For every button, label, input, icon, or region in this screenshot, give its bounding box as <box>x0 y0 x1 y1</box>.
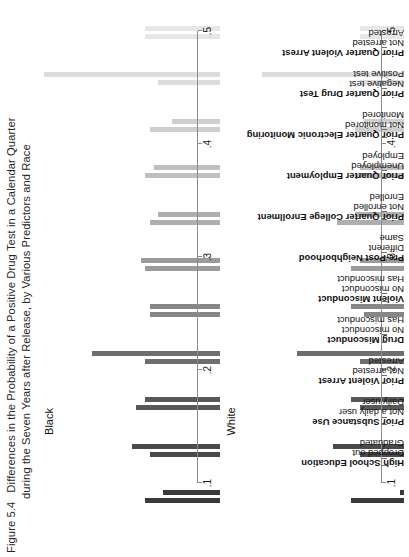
category-heading: Prior Violent Arrest <box>319 376 404 386</box>
category-heading: Prior Substance Use <box>312 417 404 427</box>
figure-title-line1: Differences in the Probability of a Posi… <box>5 117 17 492</box>
category-level: Unemployed <box>351 161 404 171</box>
bar-group <box>226 474 404 520</box>
category-level: Not arrested <box>352 366 404 376</box>
category-level: Positive test <box>353 68 404 78</box>
axis-tick-label: .5 <box>202 27 213 35</box>
category-level: No misconduct <box>342 284 404 294</box>
category-heading: Violent Misconduct <box>318 294 404 304</box>
panel-black: Black .1.2.3.4.5 <box>44 5 220 524</box>
figure-number: Figure 5.4 <box>5 502 17 553</box>
category-level: Daily user <box>362 397 404 407</box>
category-level: Not monitored <box>345 120 404 130</box>
category-level: Not enrolled <box>353 202 404 212</box>
category-heading: Pre-Post Neighborhood <box>299 253 404 263</box>
axis-tick-label: .1 <box>386 479 397 487</box>
bar-group <box>44 381 220 427</box>
category-heading: High School Education <box>301 458 404 468</box>
axis-tick-label: .3 <box>202 253 213 261</box>
category-level: Different <box>369 243 404 253</box>
bar-group <box>44 55 220 101</box>
category-level: No misconduct <box>342 325 404 335</box>
bar <box>163 490 220 495</box>
bar-group <box>44 334 220 380</box>
category-heading: Prior Quarter College Enrollment <box>258 212 404 222</box>
axis-tick-label: .4 <box>386 140 397 148</box>
category-heading: Prior Quarter Electronic Monitoring <box>247 130 404 140</box>
bar <box>145 498 220 503</box>
category-level: Arrested <box>369 27 404 37</box>
category-heading: Drug Misconduct <box>327 335 404 345</box>
axis-tick-label: .1 <box>202 479 213 487</box>
bar-group <box>44 195 220 241</box>
category-heading: Prior Quarter Employment <box>287 171 404 181</box>
bar-group <box>44 241 220 287</box>
category-level: Not a daily user <box>339 407 404 417</box>
bar-group <box>44 474 220 520</box>
bars-black <box>44 5 220 524</box>
category-level: Has misconduct <box>337 274 404 284</box>
category-level: Has misconduct <box>337 315 404 325</box>
figure-page: Figure 5.4Differences in the Probability… <box>0 0 409 557</box>
bar-group <box>44 102 220 148</box>
category-level: Dropped out <box>352 448 404 458</box>
figure-caption: Figure 5.4Differences in the Probability… <box>0 0 44 557</box>
bar-group <box>44 288 220 334</box>
figure-title-line2: during the Seven Years after Release, by… <box>19 0 34 499</box>
bar-group <box>44 148 220 194</box>
bar <box>44 72 220 77</box>
value-axis-black: .1.2.3.4.5 <box>198 31 220 483</box>
bar-group <box>44 9 220 55</box>
axis-tick-label: .4 <box>202 140 213 148</box>
category-level: Monitored <box>362 110 404 120</box>
category-level: Arrested <box>369 356 404 366</box>
category-level: Graduated <box>360 438 404 448</box>
category-labels: High School EducationDropped outGraduate… <box>404 5 409 524</box>
axis-tick-label: .2 <box>202 366 213 374</box>
figure-rotated-canvas: Figure 5.4Differences in the Probability… <box>0 0 409 557</box>
bar-group <box>44 427 220 473</box>
category-level: Enrolled <box>370 192 404 202</box>
category-level: Same <box>380 233 405 243</box>
category-level: Employed <box>362 151 404 161</box>
bar <box>351 498 404 503</box>
